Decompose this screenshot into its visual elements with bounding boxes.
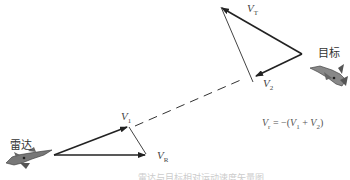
vt-subscript: T <box>254 9 258 17</box>
v1-symbol: V <box>121 110 128 122</box>
radar-label: 雷达 <box>10 136 32 152</box>
vr-subscript: R <box>164 156 169 164</box>
vr-label: VR <box>157 149 168 164</box>
v2-arrow <box>256 54 302 76</box>
line-of-sight-dashed <box>135 79 243 126</box>
vt-arrow <box>222 8 302 54</box>
v1-arrow <box>54 127 127 155</box>
v2-symbol: V <box>263 77 270 89</box>
vt-v2-closing-line <box>221 7 253 82</box>
v1-subscript: 1 <box>128 117 132 125</box>
target-label: 目标 <box>318 44 340 60</box>
v1-label: V1 <box>121 110 131 125</box>
vector-drawing <box>0 0 350 180</box>
v2-subscript: 2 <box>270 84 274 92</box>
velocity-vector-diagram: 雷达 目标 VT V2 V1 VR Vr = −(V1 + V2) 雷达与目标相… <box>0 0 350 180</box>
formula-close: ) <box>320 117 323 128</box>
vr-symbol: V <box>157 149 164 161</box>
vt-symbol: V <box>247 2 254 14</box>
vt-label: VT <box>247 2 258 17</box>
velocity-formula: Vr = −(V1 + V2) <box>262 117 323 131</box>
v2-label: V2 <box>263 77 273 92</box>
formula-plus: + <box>300 117 311 128</box>
formula-eq: = −( <box>270 117 290 128</box>
figure-caption: 雷达与目标相对运动速度矢量图 <box>138 171 264 180</box>
v1-vr-closing-line <box>129 127 146 154</box>
target-aircraft-icon <box>310 64 348 86</box>
